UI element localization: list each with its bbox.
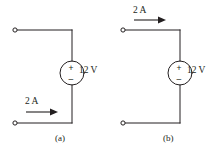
circuit-a-graphics (0, 0, 108, 155)
source-plus-sign: + (177, 64, 182, 73)
bottom-left-terminal (13, 121, 17, 125)
subfigure-caption-b: (b) (163, 134, 174, 143)
voltage-value-label: 12 V (79, 66, 97, 76)
current-value-label: 2 A (133, 6, 146, 16)
source-minus-sign: – (177, 75, 182, 84)
source-plus-sign: + (69, 64, 74, 73)
top-left-terminal (13, 28, 17, 32)
circuit-b-graphics (108, 0, 216, 155)
circuit-diagram-a: 12 V + – 2 A (a) (0, 0, 108, 155)
bottom-left-terminal (121, 121, 125, 125)
current-arrow (26, 109, 58, 116)
circuit-diagram-b: 12 V + – 2 A (b) (108, 0, 216, 155)
circuit-figure: 12 V + – 2 A (a) 12 V + – 2 (0, 0, 217, 155)
voltage-value-label: 12 V (187, 66, 205, 76)
subfigure-caption-a: (a) (55, 134, 65, 143)
current-arrow (134, 17, 166, 24)
top-left-terminal (121, 28, 125, 32)
current-value-label: 2 A (25, 97, 38, 107)
source-minus-sign: – (69, 75, 74, 84)
